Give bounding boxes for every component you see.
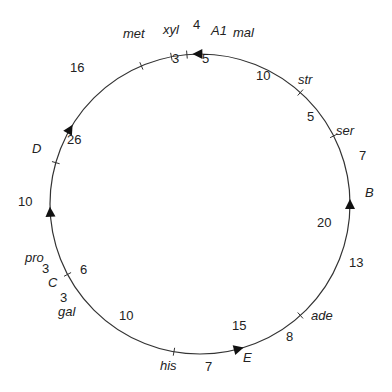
gene-label-str: str — [298, 72, 313, 87]
distance-label: 4 — [193, 17, 200, 32]
gene-label-gal: gal — [58, 304, 76, 319]
distance-label: 7 — [205, 359, 212, 374]
distance-label: 10 — [18, 194, 32, 209]
gene-label-met: met — [123, 26, 146, 41]
gene-label-xyl: xyl — [162, 22, 180, 37]
gene-label-his: his — [160, 358, 177, 373]
distance-label: 3 — [172, 51, 179, 66]
distance-label: 5 — [307, 109, 314, 124]
distance-label: 20 — [317, 215, 331, 230]
origin-label-b: B — [365, 185, 374, 200]
origin-label-a1: A1 — [210, 23, 227, 38]
distance-label: 8 — [286, 329, 293, 344]
distance-label: 6 — [80, 262, 87, 277]
origin-label-c: C — [48, 275, 58, 290]
gene-label-pro: pro — [24, 250, 44, 265]
distance-label: 15 — [232, 318, 246, 333]
distance-label: 7 — [359, 148, 366, 163]
origin-label-e: E — [243, 350, 252, 365]
distance-label: 16 — [70, 60, 84, 75]
distance-label: 10 — [119, 308, 133, 323]
label-layer: mal str ser ade his gal pro met xyl A1 B… — [0, 0, 392, 392]
distance-label: 10 — [256, 68, 270, 83]
distance-label: 5 — [202, 51, 209, 66]
gene-label-ser: ser — [336, 123, 355, 138]
gene-label-ade: ade — [311, 308, 333, 323]
gene-label-mal: mal — [233, 25, 255, 40]
distance-label: 3 — [42, 261, 49, 276]
distance-label: 13 — [349, 255, 363, 270]
origin-label-d: D — [32, 141, 41, 156]
distance-label: 26 — [67, 132, 81, 147]
distance-label: 3 — [60, 290, 67, 305]
